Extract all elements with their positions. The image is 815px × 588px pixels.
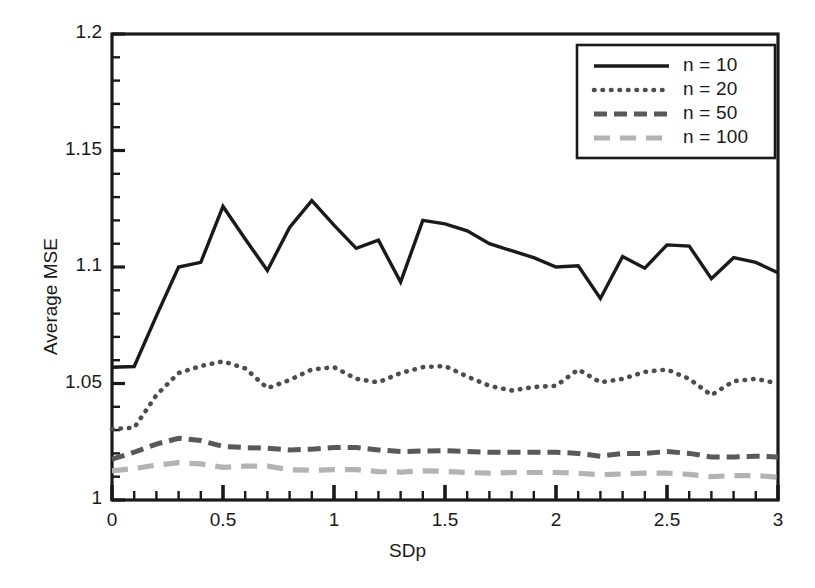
x-axis-title: SDp [0,540,815,562]
x-tick-label: 3 [748,509,808,531]
series-line-n-100 [112,463,778,477]
x-tick-label: 1 [304,509,364,531]
series-line-n-50 [112,438,778,459]
x-tick-label: 2 [526,509,586,531]
chart-figure: Average MSE SDp 11.051.11.151.2 00.511.5… [0,0,815,588]
y-tick-label: 1.05 [65,371,102,393]
y-tick-label: 1.1 [76,254,102,276]
x-tick-label: 0 [82,509,142,531]
legend-entry-label: n = 50 [683,102,738,124]
y-tick-label: 1 [91,487,102,509]
legend-entry-label: n = 20 [683,78,738,100]
y-tick-label: 1.2 [76,21,102,43]
series-line-n-20 [112,361,778,429]
x-tick-label: 2.5 [637,509,697,531]
y-tick-label: 1.15 [65,138,102,160]
series-line-n-10 [112,201,778,368]
x-tick-label: 1.5 [415,509,475,531]
legend-entry-label: n = 100 [683,126,748,148]
y-axis-title: Average MSE [40,238,62,355]
legend-entry-label: n = 10 [683,54,738,76]
x-tick-label: 0.5 [193,509,253,531]
